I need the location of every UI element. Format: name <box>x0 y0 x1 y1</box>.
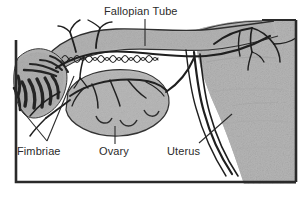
label-fimbriae: Fimbriae <box>17 146 61 157</box>
anatomy-figure <box>0 0 307 198</box>
label-uterus: Uterus <box>167 146 200 157</box>
label-ovary: Ovary <box>99 146 129 157</box>
anatomy-illustration <box>0 0 307 198</box>
label-fallopian-tube: Fallopian Tube <box>104 6 178 17</box>
